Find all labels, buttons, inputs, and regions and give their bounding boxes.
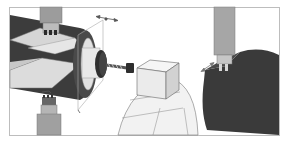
machining-illustration [0,0,287,143]
top-end-mill [40,7,62,35]
right-vertical-spindle [214,7,235,71]
